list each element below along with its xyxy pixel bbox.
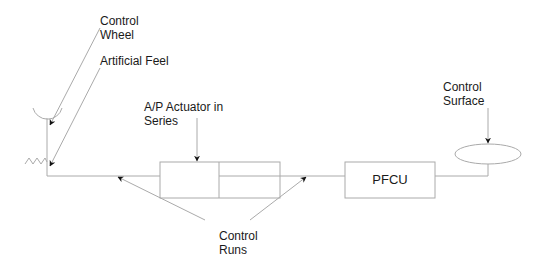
control-surface-icon xyxy=(455,144,521,164)
control-wheel-leader xyxy=(50,28,100,125)
artificial-feel-leader xyxy=(50,68,100,166)
ap-actuator-box xyxy=(160,162,280,198)
pfcu-label: PFCU xyxy=(345,172,435,187)
artificial-feel-label: Artificial Feel xyxy=(100,54,169,68)
diagram-canvas: Control Wheel Artificial Feel A/P Actuat… xyxy=(0,0,544,269)
control-runs-label: Control Runs xyxy=(219,229,258,257)
control-wheel-label: Control Wheel xyxy=(100,14,139,42)
surface-link-line xyxy=(435,164,488,176)
diagram-graphics xyxy=(0,0,544,269)
control-surface-label: Control Surface xyxy=(443,80,484,108)
spring-icon xyxy=(25,158,47,164)
ap-actuator-label: A/P Actuator in Series xyxy=(144,100,223,128)
